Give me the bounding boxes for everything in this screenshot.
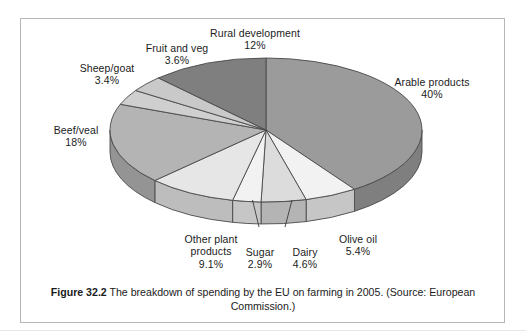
slice-label-sheep-goat-name: Sheep/goat	[80, 62, 135, 74]
figure-caption-label: Figure 32.2	[51, 286, 107, 298]
slice-label-arable-products-name: Arable products	[394, 76, 469, 88]
slice-label-arable-products: Arable products 40%	[373, 76, 491, 101]
slice-label-dairy: Dairy 4.6%	[281, 246, 329, 271]
slice-label-olive-oil-name: Olive oil	[339, 233, 377, 245]
pie-wall-sugar	[233, 200, 261, 224]
figure-caption: Figure 32.2 The breakdown of spending by…	[38, 285, 488, 313]
slice-label-fruit-and-veg-name: Fruit and veg	[146, 42, 209, 54]
slice-label-sheep-goat: Sheep/goat 3.4%	[52, 62, 162, 87]
slice-label-beef-veal-name: Beef/veal	[54, 124, 99, 136]
slice-label-beef-veal: Beef/veal 18%	[30, 124, 122, 149]
slice-label-arable-products-value: 40%	[373, 88, 491, 100]
slice-label-sugar-name: Sugar	[246, 246, 275, 258]
slice-label-beef-veal-value: 18%	[30, 136, 122, 148]
slice-label-dairy-name: Dairy	[292, 246, 317, 258]
slice-label-dairy-value: 4.6%	[281, 258, 329, 270]
figure-caption-text: The breakdown of spending by the EU on f…	[107, 286, 475, 312]
slice-label-sugar: Sugar 2.9%	[235, 246, 285, 271]
slice-label-sheep-goat-value: 3.4%	[52, 74, 162, 86]
slice-label-other-plant-products-name-line1: Other plant	[184, 233, 237, 245]
slice-label-sugar-value: 2.9%	[235, 258, 285, 270]
slice-label-rural-development-name: Rural development	[210, 27, 300, 39]
figure-container: Rural development 12% Fruit and veg 3.6%…	[0, 0, 526, 335]
pie-wall-dairy	[261, 200, 306, 224]
page-divider	[0, 330, 526, 331]
slice-label-olive-oil: Olive oil 5.4%	[326, 233, 390, 258]
slice-label-olive-oil-value: 5.4%	[326, 245, 390, 257]
